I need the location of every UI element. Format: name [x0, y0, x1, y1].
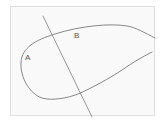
- open-curve: [21, 25, 155, 99]
- diagram-figure: A B: [0, 0, 164, 122]
- label-b: B: [74, 32, 79, 40]
- crossing-line: [43, 16, 92, 117]
- label-a: A: [25, 54, 30, 62]
